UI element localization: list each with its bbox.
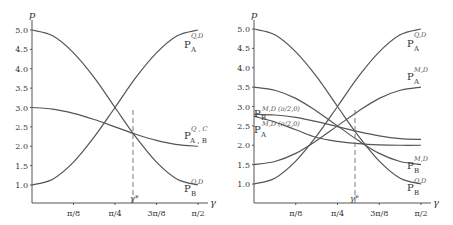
x-tick-label: π/2 bbox=[414, 209, 427, 218]
gamma-star-label: γ* bbox=[130, 194, 139, 203]
y-ticks: 1.01.52.02.53.03.54.04.55.0 bbox=[15, 26, 32, 190]
y-tick-label: 5.0 bbox=[15, 26, 28, 35]
svg-text:Q,D: Q,D bbox=[191, 32, 204, 40]
y-tick-label: 1.5 bbox=[237, 161, 250, 170]
x-tick-label: π/4 bbox=[331, 209, 344, 218]
y-axis-label: p bbox=[251, 9, 258, 20]
x-tick-label: π/8 bbox=[67, 209, 80, 218]
y-tick-label: 2.5 bbox=[237, 122, 250, 131]
svg-text:P: P bbox=[254, 108, 261, 119]
x-ticks: π/8π/43π/8π/2 bbox=[67, 203, 205, 218]
svg-text:M,D: M,D bbox=[413, 155, 429, 163]
label-pa-qd: P A Q,D bbox=[407, 31, 427, 53]
series-line bbox=[32, 108, 198, 147]
svg-text:P: P bbox=[254, 124, 261, 135]
left-chart: p γ 1.01.52.02.53.03.54.04.55.0 π/8π/43π… bbox=[15, 9, 216, 218]
y-tick-label: 4.0 bbox=[237, 64, 250, 73]
series-line bbox=[32, 30, 198, 185]
svg-text:M,D (π/2,0): M,D (π/2,0) bbox=[261, 120, 300, 128]
label-pb-md: P B M,D bbox=[407, 155, 429, 175]
svg-text:P: P bbox=[407, 182, 414, 193]
y-tick-label: 2.0 bbox=[15, 142, 28, 151]
y-tick-label: 2.0 bbox=[237, 141, 250, 150]
right-chart: p γ 1.01.52.02.53.03.54.04.55.0 π/8π/43π… bbox=[237, 9, 439, 218]
svg-text:P: P bbox=[184, 183, 191, 194]
y-tick-label: 1.0 bbox=[237, 180, 250, 189]
y-tick-label: 3.5 bbox=[237, 83, 250, 92]
y-tick-label: 2.5 bbox=[15, 123, 28, 132]
y-tick-label: 1.0 bbox=[15, 181, 28, 190]
label-pa-qd: P A Q,D bbox=[184, 32, 204, 54]
y-ticks: 1.01.52.02.53.03.54.04.55.0 bbox=[237, 25, 254, 189]
y-tick-label: 4.5 bbox=[237, 44, 250, 53]
svg-text:M,D: M,D bbox=[413, 66, 429, 74]
y-tick-label: 3.5 bbox=[15, 84, 28, 93]
svg-text:M,D (π/2,0): M,D (π/2,0) bbox=[261, 105, 300, 113]
label-pa-md: P A M,D bbox=[407, 66, 429, 86]
svg-text:A: A bbox=[413, 45, 420, 53]
y-axis-label: p bbox=[29, 9, 36, 20]
curves bbox=[32, 30, 198, 185]
x-tick-label: 3π/8 bbox=[147, 209, 165, 218]
y-tick-label: 5.0 bbox=[237, 25, 250, 34]
svg-text:A: A bbox=[260, 131, 267, 139]
svg-text:B: B bbox=[414, 167, 419, 175]
y-tick-label: 4.5 bbox=[15, 45, 28, 54]
svg-text:A: A bbox=[413, 78, 420, 86]
x-tick-label: 3π/8 bbox=[370, 209, 388, 218]
x-axis-label: γ bbox=[433, 197, 439, 208]
svg-text:P: P bbox=[407, 160, 414, 171]
y-tick-label: 3.0 bbox=[15, 104, 28, 113]
label-pb-qd: P B Q,D bbox=[184, 178, 204, 198]
figure: p γ 1.01.52.02.53.03.54.04.55.0 π/8π/43π… bbox=[0, 0, 453, 225]
svg-text:Q,D: Q,D bbox=[191, 178, 204, 186]
svg-text:A: A bbox=[190, 46, 197, 54]
label-pb-qd: P B Q,D bbox=[407, 177, 427, 197]
y-tick-label: 4.0 bbox=[15, 65, 28, 74]
x-tick-label: π/4 bbox=[108, 209, 121, 218]
gamma-star-label: γ* bbox=[350, 194, 359, 203]
svg-text:Q,D: Q,D bbox=[414, 177, 427, 185]
svg-text:A , B: A , B bbox=[189, 137, 207, 145]
svg-text:Q , C: Q , C bbox=[191, 125, 208, 133]
svg-text:B: B bbox=[191, 190, 196, 198]
y-tick-label: 3.0 bbox=[237, 103, 250, 112]
x-ticks: π/8π/43π/8π/2 bbox=[289, 203, 427, 218]
svg-text:P: P bbox=[184, 39, 191, 50]
svg-text:B: B bbox=[414, 189, 419, 197]
svg-text:P: P bbox=[407, 71, 414, 82]
x-axis-label: γ bbox=[210, 197, 216, 208]
x-tick-label: π/2 bbox=[191, 209, 204, 218]
svg-text:P: P bbox=[407, 38, 414, 49]
svg-text:Q,D: Q,D bbox=[414, 31, 427, 39]
label-pab-qc: P A , B Q , C bbox=[184, 125, 208, 145]
x-tick-label: π/8 bbox=[289, 209, 302, 218]
y-tick-label: 1.5 bbox=[15, 162, 28, 171]
